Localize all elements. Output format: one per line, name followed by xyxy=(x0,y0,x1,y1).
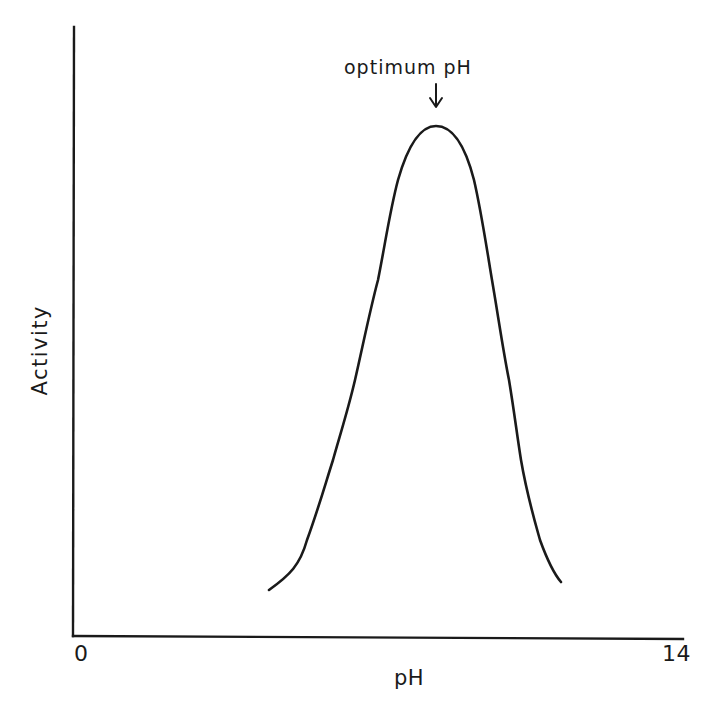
x-axis-line xyxy=(73,636,683,639)
x-tick-label-min: 0 xyxy=(74,643,89,665)
activity-curve xyxy=(269,126,561,590)
x-axis-label: pH xyxy=(394,668,424,689)
y-axis-label: Activity xyxy=(30,306,51,396)
arrow-down-icon xyxy=(430,84,442,107)
chart-plot xyxy=(0,0,714,722)
optimum-ph-annotation: optimum pH xyxy=(344,58,472,77)
y-axis-line xyxy=(73,27,74,636)
x-tick-label-max: 14 xyxy=(662,643,691,665)
